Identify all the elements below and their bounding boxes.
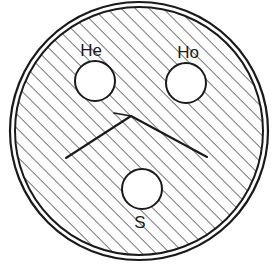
hole-s-label: S [134,213,145,232]
hole-ho-label: Ho [177,43,199,62]
hole-he-label: He [80,41,102,60]
cross-section-diagram: He Ho S [0,0,278,271]
figure-root: He Ho S [0,0,278,271]
hole-he-circle [75,61,115,101]
hole-s-circle [122,169,162,209]
hole-ho-circle [166,63,206,103]
